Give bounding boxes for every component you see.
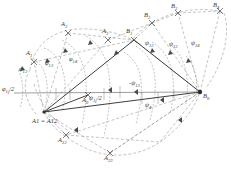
lower-arc-3 <box>34 84 70 132</box>
angle-label-phi14: φ14 <box>69 56 77 65</box>
angle-label-phi12: φ12 <box>19 66 27 75</box>
kinematic-diagram-figure: A2 A3 A1 A0 A1 = A12 A13 A23 B1 B2 B3 B4… <box>0 0 231 176</box>
angle-label-psi4: ψ4 <box>145 102 151 111</box>
point-label-A1-upper: A1 <box>26 50 32 59</box>
link-A1-B0 <box>44 92 200 112</box>
reference-axis <box>14 92 200 93</box>
point-label-A3: A3 <box>102 28 108 37</box>
left-crescent <box>25 70 36 114</box>
point-label-A2: A2 <box>61 21 67 30</box>
angle-label-psi12: ψ12 <box>145 40 154 49</box>
point-label-B4: B4 <box>213 2 219 11</box>
point-label-A13: A13 <box>58 137 67 146</box>
solid-linkage <box>44 40 200 112</box>
angle-label-phi1j-half: φ1j/2 <box>2 86 14 95</box>
point-label-A1-eq-A12: A1 = A12 <box>32 118 57 125</box>
angle-label-psi13: ψ13 <box>169 41 178 50</box>
point-label-B2: B2 <box>144 12 150 21</box>
diagram-canvas <box>0 0 231 176</box>
rays-from-B0 <box>66 11 220 153</box>
angle-label-psi14: ψ14 <box>191 40 200 49</box>
angle-arc-phi-5 <box>18 70 23 108</box>
angle-arc-phi-3 <box>62 40 86 124</box>
point-label-A0: A0 <box>82 97 88 106</box>
lower-arc-1 <box>44 112 160 155</box>
point-label-A23: A23 <box>104 155 113 164</box>
angle-label-psi13-negative: -ψ13 <box>129 80 140 89</box>
point-label-B3: B3 <box>171 3 177 12</box>
angle-label-phi13: φ13 <box>45 60 53 69</box>
point-label-B1: B1 <box>126 28 132 37</box>
point-label-B0: B0 <box>203 93 209 102</box>
outer-envelope-right <box>206 13 227 88</box>
angle-label-psi1j-half: ψ1j/2 <box>89 95 102 104</box>
